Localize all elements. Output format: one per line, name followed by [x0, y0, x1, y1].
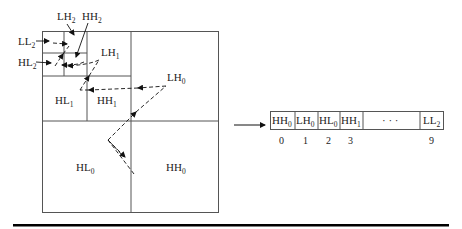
array-cell-5: LL2 [423, 114, 440, 129]
label-ll2: LL2 [18, 35, 35, 50]
subband-grid [43, 32, 219, 213]
array-index-9: 9 [429, 135, 434, 146]
bottom-rule [13, 224, 449, 227]
label-lh1: LH1 [101, 46, 120, 61]
array-cell-2: HL0 [319, 114, 338, 129]
label-hh2: HH2 [82, 10, 102, 25]
array-cell-ellipsis: · · · [382, 114, 399, 126]
hh2-pointer-arrow [76, 23, 88, 57]
lh2-pointer-arrow [67, 24, 74, 35]
array-index-1: 1 [303, 135, 308, 146]
array-cell-1: LH0 [296, 114, 315, 129]
array-index-2: 2 [326, 135, 331, 146]
label-hl1: HL1 [55, 94, 74, 109]
label-lh2: LH2 [57, 10, 76, 25]
array-index-0: 0 [279, 135, 284, 146]
array-index-3: 3 [348, 135, 353, 146]
array-cell-0: HH0 [272, 114, 292, 129]
label-hh1: HH1 [97, 94, 117, 109]
scan-seg-hh0 [108, 140, 134, 174]
wavelet-diagram: LL2 LH2 HH2 HL2 LH1 HL1 HH1 LH0 HL0 HH0 … [0, 0, 462, 229]
label-lh0: LH0 [167, 71, 186, 86]
label-hh0: HH0 [166, 161, 186, 176]
coefficient-array: HH0 LH0 HL0 HH1 · · · LL2 0 1 2 3 9 [271, 112, 444, 147]
array-cell-3: HH1 [341, 114, 361, 129]
hl2-pointer-arrow [36, 62, 51, 63]
label-hl0: HL0 [76, 161, 95, 176]
label-hl2: HL2 [18, 56, 37, 71]
label-pointers [36, 23, 88, 63]
subband-labels: LL2 LH2 HH2 HL2 LH1 HL1 HH1 LH0 HL0 HH0 [18, 10, 186, 176]
